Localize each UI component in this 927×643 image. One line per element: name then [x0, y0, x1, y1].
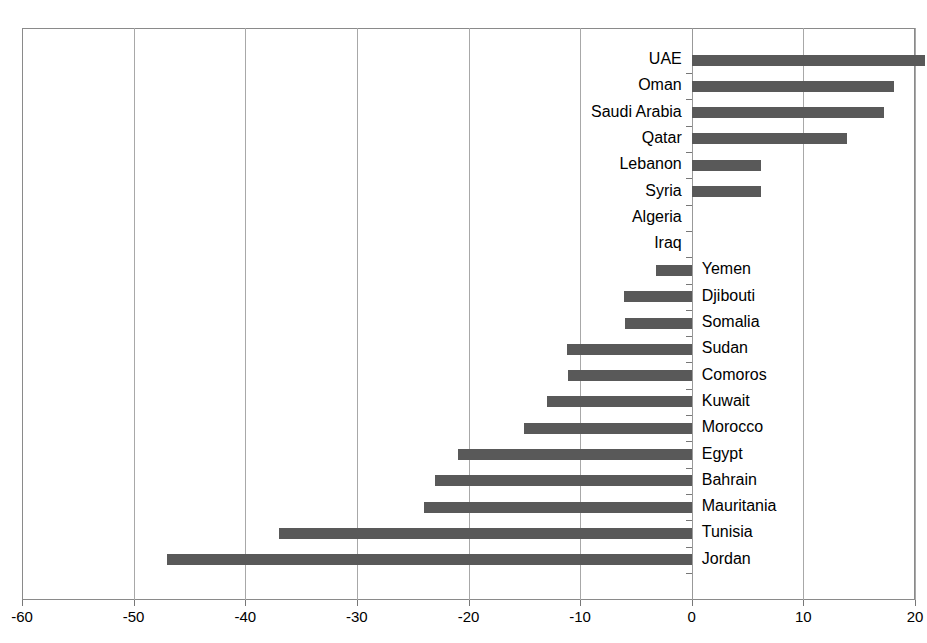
category-label-qatar: Qatar [642, 130, 682, 146]
category-label-uae: UAE [649, 51, 682, 67]
bar-yemen [656, 265, 692, 276]
category-tick [686, 441, 692, 442]
category-tick [686, 336, 692, 337]
x-tick-label: -60 [11, 608, 33, 625]
x-tick-label: -50 [123, 608, 145, 625]
category-tick [686, 178, 692, 179]
category-label-sudan: Sudan [702, 340, 748, 356]
category-label-djibouti: Djibouti [702, 288, 755, 304]
category-label-mauritania: Mauritania [702, 498, 777, 514]
bar-comoros [568, 370, 692, 381]
bar-djibouti [624, 291, 692, 302]
category-label-lebanon: Lebanon [619, 156, 681, 172]
x-tick-mark--60 [22, 600, 23, 606]
category-label-somalia: Somalia [702, 314, 760, 330]
category-tick [686, 73, 692, 74]
category-tick [686, 494, 692, 495]
bar-saudi-arabia [692, 107, 884, 118]
category-label-oman: Oman [638, 77, 682, 93]
gridline--40 [245, 28, 246, 600]
x-tick-mark-0 [692, 600, 693, 606]
category-tick [686, 99, 692, 100]
bar-morocco [524, 423, 691, 434]
x-tick-label: 10 [795, 608, 812, 625]
category-tick [686, 205, 692, 206]
bar-jordan [167, 554, 692, 565]
category-tick [686, 257, 692, 258]
category-tick [686, 520, 692, 521]
gridline--50 [134, 28, 135, 600]
x-tick-mark-10 [803, 600, 804, 606]
x-tick-label: -20 [458, 608, 480, 625]
category-label-saudi-arabia: Saudi Arabia [591, 104, 682, 120]
category-tick [686, 415, 692, 416]
bar-egypt [458, 449, 691, 460]
category-tick [686, 310, 692, 311]
bar-qatar [692, 133, 847, 144]
chart-title [0, 0, 927, 5]
bar-somalia [625, 318, 692, 329]
category-label-tunisia: Tunisia [702, 524, 753, 540]
category-label-algeria: Algeria [632, 209, 682, 225]
x-tick-mark--40 [245, 600, 246, 606]
x-tick-label: 0 [688, 608, 696, 625]
x-tick-label: -40 [234, 608, 256, 625]
gridline--20 [469, 28, 470, 600]
category-label-iraq: Iraq [654, 235, 682, 251]
x-tick-label: -10 [569, 608, 591, 625]
category-tick [686, 547, 692, 548]
bar-syria [692, 186, 761, 197]
bar-chart: -60-50-40-30-20-1001020 UAEOmanSaudi Ara… [0, 0, 927, 643]
category-tick [686, 573, 692, 574]
bar-lebanon [692, 160, 761, 171]
bar-sudan [567, 344, 692, 355]
gridline-20 [915, 28, 916, 600]
bar-bahrain [435, 475, 692, 486]
bar-oman [692, 81, 894, 92]
category-tick [686, 126, 692, 127]
bar-mauritania [424, 502, 692, 513]
category-tick [686, 231, 692, 232]
x-tick-mark-20 [915, 600, 916, 606]
category-label-jordan: Jordan [702, 551, 751, 567]
x-tick-label: 20 [907, 608, 924, 625]
category-tick [686, 468, 692, 469]
category-tick [686, 284, 692, 285]
gridline--10 [580, 28, 581, 600]
category-label-kuwait: Kuwait [702, 393, 750, 409]
gridline--30 [357, 28, 358, 600]
bar-tunisia [279, 528, 692, 539]
category-label-morocco: Morocco [702, 419, 763, 435]
category-tick [686, 389, 692, 390]
category-tick [686, 152, 692, 153]
category-label-syria: Syria [645, 183, 681, 199]
x-tick-mark--50 [134, 600, 135, 606]
category-tick [686, 362, 692, 363]
x-tick-mark--30 [357, 600, 358, 606]
category-label-comoros: Comoros [702, 367, 767, 383]
x-tick-label: -30 [346, 608, 368, 625]
x-tick-mark--20 [469, 600, 470, 606]
category-label-egypt: Egypt [702, 446, 743, 462]
x-tick-mark--10 [580, 600, 581, 606]
category-label-yemen: Yemen [702, 261, 751, 277]
bar-kuwait [547, 396, 692, 407]
bar-uae [692, 55, 925, 66]
category-label-bahrain: Bahrain [702, 472, 757, 488]
